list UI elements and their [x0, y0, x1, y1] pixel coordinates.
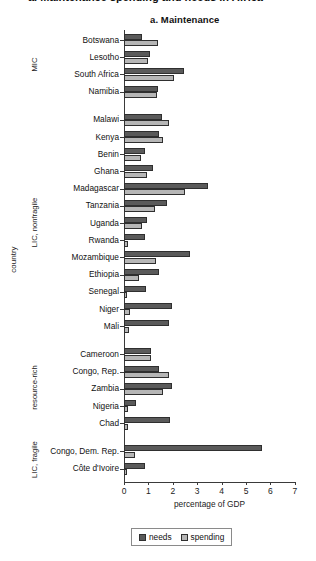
bar-needs [124, 366, 159, 372]
bar-spending [124, 223, 142, 229]
category-label: Rwanda [0, 235, 119, 245]
bar-spending [124, 241, 128, 247]
bar-needs [124, 445, 262, 451]
category-label-row: Niger [0, 304, 119, 314]
x-tick-5 [246, 482, 247, 485]
legend-item-needs: needs [139, 532, 172, 542]
category-label-row: Tanzania [0, 200, 119, 210]
bar-spending [124, 258, 156, 264]
bar-needs [124, 251, 190, 257]
category-label-row: Lesotho [0, 52, 119, 62]
category-label-row: Côte d'Ivoire [0, 463, 119, 473]
bar-spending [124, 292, 127, 298]
bar-spending [124, 206, 155, 212]
bar-spending [124, 58, 148, 64]
category-label-row: Uganda [0, 218, 119, 228]
x-tick-label-3: 3 [187, 486, 207, 496]
x-tick-7 [295, 482, 296, 485]
category-label-row: Chad [0, 418, 119, 428]
bar-needs [124, 234, 145, 240]
bar-needs [124, 348, 151, 354]
bar-needs [124, 383, 172, 389]
category-label: Botswana [0, 35, 119, 45]
x-tick-6 [270, 482, 271, 485]
x-tick-1 [148, 482, 149, 485]
category-label-row: Mozambique [0, 252, 119, 262]
category-label-row: South Africa [0, 69, 119, 79]
category-label-row: Mali [0, 321, 119, 331]
category-label: Nigeria [0, 401, 119, 411]
legend-label-spending: spending [191, 532, 225, 542]
bar-needs [124, 148, 145, 154]
group-label: MIC [30, 25, 39, 105]
category-label: Namibia [0, 86, 119, 96]
category-label: South Africa [0, 69, 119, 79]
bar-needs [124, 51, 150, 57]
category-label: Kenya [0, 132, 119, 142]
bar-spending [124, 389, 163, 395]
category-label: Niger [0, 304, 119, 314]
group-label: LIC, fragile [30, 419, 39, 499]
legend-swatch-spending [181, 534, 188, 541]
bar-needs [124, 269, 159, 275]
category-label: Benin [0, 149, 119, 159]
bar-needs [124, 68, 184, 74]
category-label: Ethiopia [0, 269, 119, 279]
bar-spending [124, 452, 135, 458]
bar-needs [124, 183, 208, 189]
bar-spending [124, 275, 139, 281]
category-label: Chad [0, 418, 119, 428]
bar-needs [124, 286, 146, 292]
category-label: Congo, Rep. [0, 366, 119, 376]
category-label: Mali [0, 321, 119, 331]
bar-needs [124, 34, 142, 40]
chart-legend: needs spending [131, 528, 232, 546]
category-label-row: Madagascar [0, 183, 119, 193]
bar-needs [124, 217, 147, 223]
x-axis-line [124, 482, 295, 483]
x-tick-3 [197, 482, 198, 485]
bar-needs [124, 131, 159, 137]
category-label-row: Kenya [0, 132, 119, 142]
category-label-row: Benin [0, 149, 119, 159]
category-label-row: Ethiopia [0, 269, 119, 279]
category-label-row: Nigeria [0, 401, 119, 411]
x-tick-label-6: 6 [260, 486, 280, 496]
legend-item-spending: spending [181, 532, 225, 542]
bar-needs [124, 463, 145, 469]
bar-spending [124, 355, 151, 361]
category-label: Cameroon [0, 349, 119, 359]
bar-spending [124, 309, 130, 315]
bar-needs [124, 86, 158, 92]
category-label: Senegal [0, 286, 119, 296]
x-tick-label-5: 5 [236, 486, 256, 496]
category-label-row: Congo, Dem. Rep. [0, 446, 119, 456]
category-label: Congo, Dem. Rep. [0, 446, 119, 456]
bar-needs [124, 417, 170, 423]
group-label: resource-rich [30, 348, 39, 428]
x-tick-label-4: 4 [212, 486, 232, 496]
category-label-row: Namibia [0, 86, 119, 96]
bar-spending [124, 406, 128, 412]
group-label: LIC, nonfragile [30, 182, 39, 262]
category-label-row: Ghana [0, 166, 119, 176]
x-tick-label-1: 1 [138, 486, 158, 496]
category-label-row: Botswana [0, 35, 119, 45]
x-tick-2 [173, 482, 174, 485]
bar-needs [124, 165, 153, 171]
bar-needs [124, 400, 136, 406]
x-tick-0 [124, 482, 125, 485]
x-tick-4 [222, 482, 223, 485]
bar-spending [124, 120, 169, 126]
bar-needs [124, 303, 172, 309]
bar-needs [124, 114, 162, 120]
x-axis-title: percentage of GDP [124, 499, 295, 509]
x-tick-label-2: 2 [163, 486, 183, 496]
chart-plot-area: 01234567 BotswanaLesothoSouth AfricaNami… [0, 0, 316, 561]
bar-needs [124, 320, 169, 326]
bar-spending [124, 172, 147, 178]
category-label: Malawi [0, 114, 119, 124]
category-label: Lesotho [0, 52, 119, 62]
bar-spending [124, 75, 174, 81]
category-label: Côte d'Ivoire [0, 463, 119, 473]
